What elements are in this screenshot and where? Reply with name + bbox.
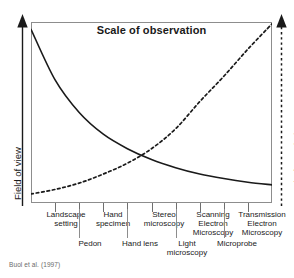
x-axis-label-primary: Transmission Electron Microscopy (231, 210, 293, 238)
citation: Buol et al. (1997) (9, 261, 60, 268)
x-axis-label-primary: Hand specimen (86, 210, 140, 228)
x-axis-label-secondary: Light microscopy (161, 239, 213, 257)
x-axis-label-secondary: Microprobe (209, 239, 265, 248)
left-axis-title: Field of view (12, 147, 23, 200)
field-of-view-curve (31, 29, 272, 185)
curves-layer (31, 22, 272, 203)
x-axis-label-divider (127, 209, 128, 238)
x-axis-label-secondary: Pedon (68, 239, 112, 248)
x-axis-label-secondary: Hand lens (114, 239, 166, 248)
right-axis-title: Level of Resolution (292, 122, 294, 203)
x-axis-label-divider (224, 209, 225, 238)
level-of-resolution-curve (31, 24, 272, 194)
right-axis-arrow (272, 14, 292, 206)
scale-of-observation-figure: Scale of observation Field of view Level… (0, 0, 294, 278)
x-axis-label-divider (176, 209, 177, 238)
x-axis-label-divider (79, 209, 80, 238)
